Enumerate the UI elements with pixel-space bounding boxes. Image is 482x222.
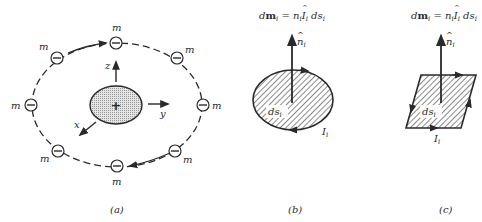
magnetic-moment-diagram: + z y x m m m m	[0, 0, 482, 222]
svg-text:m: m	[183, 154, 192, 165]
caption-a: (a)	[110, 204, 124, 215]
orbit-arrow-bottom	[130, 153, 170, 166]
electron: m	[111, 160, 123, 187]
z-axis-label: z	[104, 60, 111, 71]
current-loop-circular	[253, 70, 333, 130]
electron: m	[39, 41, 63, 64]
svg-text:m: m	[112, 176, 121, 187]
electron: m	[11, 99, 37, 111]
current-label-b: Ii	[321, 126, 328, 139]
svg-text:m: m	[112, 22, 121, 33]
x-axis-arrow	[80, 122, 96, 135]
svg-text:m: m	[185, 44, 194, 55]
svg-text:^: ^	[302, 4, 308, 12]
panel-c: dmi = niIi dsi ^ dsi ni ^ Ii (c)	[406, 4, 477, 215]
svg-text:^: ^	[297, 30, 304, 39]
svg-text:^: ^	[454, 4, 460, 12]
y-axis-label: y	[159, 108, 166, 119]
caption-c: (c)	[439, 204, 453, 215]
electron: m	[171, 44, 194, 64]
electron: m	[40, 145, 64, 164]
svg-text:^: ^	[446, 30, 453, 39]
electron: m	[197, 99, 221, 111]
x-axis-label: x	[74, 119, 80, 130]
svg-text:m: m	[11, 100, 20, 111]
equation-b: dmi = niIi dsi	[259, 10, 325, 23]
svg-text:m: m	[39, 41, 48, 52]
panel-b: dmi = niIi dsi ^ dsi ni ^ Ii (b)	[253, 4, 333, 215]
nucleus-plus-symbol: +	[111, 98, 122, 113]
electron: m	[169, 145, 192, 165]
current-label-c: Ii	[433, 133, 440, 146]
equation-c: dmi = niIi dsi	[411, 10, 477, 23]
svg-text:m: m	[212, 100, 221, 111]
caption-b: (b)	[288, 204, 302, 215]
svg-text:m: m	[40, 153, 49, 164]
panel-a: + z y x m m m m	[11, 22, 221, 215]
electron: m	[110, 22, 122, 49]
